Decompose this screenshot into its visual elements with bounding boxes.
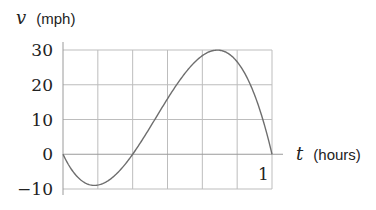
y-tick-label: 0 (42, 144, 53, 164)
y-axis-label: v (mph) (16, 7, 75, 28)
grid-lines (63, 50, 272, 189)
x-axis-variable: t (296, 143, 304, 164)
y-tick-label: −10 (17, 179, 53, 199)
axes (63, 42, 283, 195)
x-axis-unit: (hours) (313, 146, 361, 163)
y-tick-label: 10 (31, 110, 53, 130)
y-tick-label: 30 (31, 40, 53, 60)
y-axis-unit: (mph) (36, 10, 75, 27)
velocity-chart: 3020100−10 v (mph) t (hours) 1 (0, 0, 376, 210)
x-axis-label: t (hours) (296, 143, 361, 164)
y-tick-label: 20 (31, 75, 53, 95)
x-tick-label-1: 1 (258, 164, 269, 184)
y-axis-variable: v (16, 7, 26, 28)
y-tick-labels: 3020100−10 (17, 40, 53, 199)
